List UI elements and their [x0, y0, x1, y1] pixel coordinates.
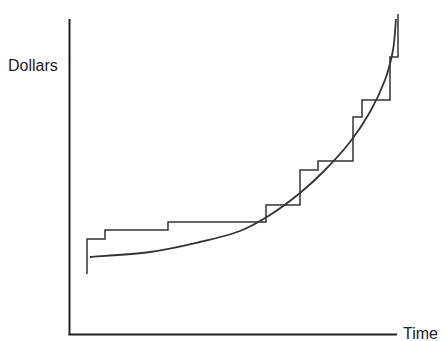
y-axis-label: Dollars — [8, 57, 58, 75]
step-series — [87, 14, 398, 274]
axes — [69, 19, 398, 335]
chart-canvas — [0, 0, 445, 341]
x-axis-label: Time — [403, 325, 438, 341]
